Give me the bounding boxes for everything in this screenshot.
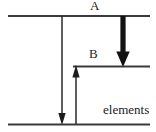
- level-label-b: B: [89, 47, 98, 60]
- transition-arrow-a-to-ground: [58, 16, 65, 125]
- transition-arrow-ground-to-b: [72, 65, 79, 124]
- level-label-a: A: [90, 0, 99, 12]
- transition-arrow-a-to-b-thick: [116, 16, 129, 67]
- energy-level-diagram: A B elements: [0, 0, 156, 132]
- level-label-elements: elements: [103, 103, 149, 116]
